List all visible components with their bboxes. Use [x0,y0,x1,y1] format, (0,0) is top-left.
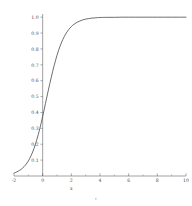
y-tick-label: 0.9 [31,31,38,36]
chart-background [0,0,192,206]
sigmoid-plot: 0.10.20.30.40.50.60.70.80.91.0 -20246810… [0,0,192,206]
x-tick-label: 6 [127,178,130,183]
x-tick-label: 8 [156,178,159,183]
page-artifact-speck [95,198,97,200]
x-tick-label: 4 [99,178,102,183]
y-tick-label: 0.3 [31,126,38,131]
y-tick-label: 0.4 [31,110,38,115]
y-tick-label: 0.7 [31,63,38,68]
x-tick-label: 2 [70,178,73,183]
x-tick-label: -2 [12,178,17,183]
y-tick-label: 0.1 [31,158,38,163]
y-tick-label: 0.6 [31,78,38,83]
x-axis-label: x [70,186,73,191]
chart-container: 0.10.20.30.40.50.60.70.80.91.0 -20246810… [0,0,192,206]
x-tick-label: 10 [183,178,189,183]
y-tick-label: 0.5 [31,94,38,99]
y-tick-label: 0.8 [31,47,38,52]
y-tick-label: 1.0 [31,15,38,20]
x-tick-label: 0 [41,178,44,183]
